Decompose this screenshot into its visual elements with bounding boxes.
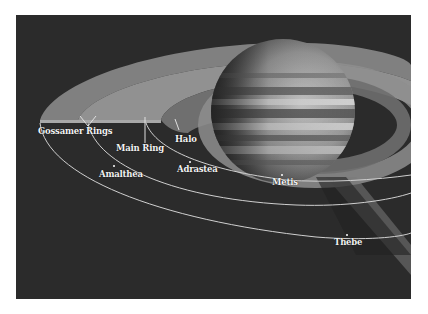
label-metis: Metis: [272, 177, 298, 187]
label-adrastea: Adrastea: [177, 164, 218, 174]
label-main-ring: Main Ring: [116, 143, 164, 153]
diagram-frame: Gossamer Rings Main Ring Halo Amalthea A…: [16, 15, 411, 299]
label-gossamer-rings: Gossamer Rings: [38, 126, 112, 136]
label-halo: Halo: [175, 134, 197, 144]
label-thebe: Thebe: [334, 237, 362, 247]
label-amalthea: Amalthea: [99, 169, 143, 179]
jupiter-ring-illustration: [16, 15, 411, 299]
